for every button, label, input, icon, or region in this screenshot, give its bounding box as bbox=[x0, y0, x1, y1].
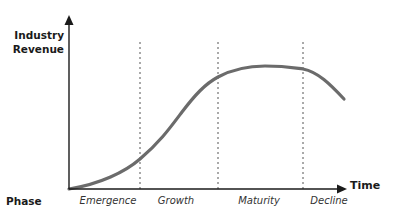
phase-emergence: Emergence bbox=[80, 195, 137, 206]
y-axis-label: Industry Revenue bbox=[4, 28, 64, 56]
y-axis-arrow-icon bbox=[65, 15, 74, 25]
phase-decline: Decline bbox=[310, 195, 347, 206]
phase-growth: Growth bbox=[158, 195, 194, 206]
phase-axis-label: Phase bbox=[6, 195, 42, 207]
x-axis-label: Time bbox=[350, 179, 380, 192]
phase-maturity: Maturity bbox=[238, 195, 280, 206]
x-axis-arrow-icon bbox=[337, 185, 347, 194]
